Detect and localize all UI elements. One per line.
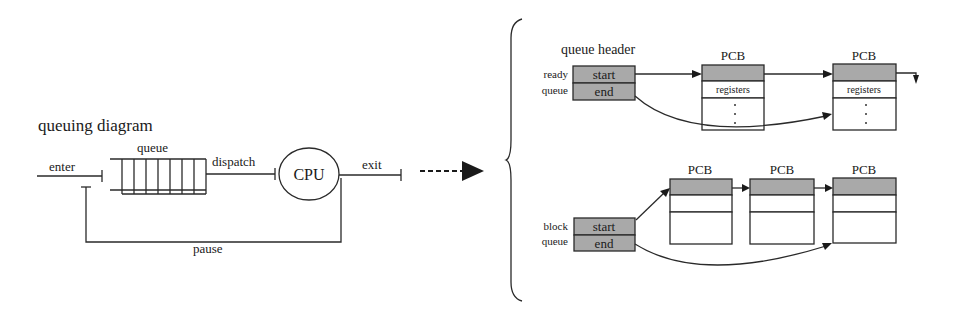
queuing-diagram: queuing diagram enter queue dispatch CPU <box>37 116 401 256</box>
block-queue-label-line2: queue <box>542 235 568 247</box>
arrow-head-icon <box>823 70 833 78</box>
ready-queue: queue header ready queue start end PCB r… <box>542 42 919 130</box>
pcb-title: PCB <box>688 162 713 177</box>
pcb2-next-pointer <box>896 73 916 78</box>
arrow-head-icon <box>742 184 750 192</box>
ready-queue-label-line2: queue <box>542 84 568 96</box>
queue-header-title: queue header <box>561 42 636 57</box>
queue-label: queue <box>137 140 168 155</box>
block-queue: block queue start end PCB PCB PCB <box>542 162 896 265</box>
block-start-label: start <box>593 219 616 234</box>
arrow-head-icon <box>825 184 833 192</box>
ready-start-label: start <box>593 67 616 82</box>
pcb-registers-label: registers <box>716 84 750 95</box>
arrow-head-icon <box>692 70 702 78</box>
pcb-title: PCB <box>852 162 877 177</box>
arrow-head-icon <box>462 161 484 181</box>
block-end-label: end <box>595 236 614 251</box>
queuing-diagram-canvas: queuing diagram enter queue dispatch CPU <box>0 0 955 317</box>
ready-pcb-2: PCB registers <box>833 48 896 130</box>
pcb-title: PCB <box>852 48 877 63</box>
block-start-to-pcb1-arrow <box>636 193 664 220</box>
arrow-head-icon <box>822 243 832 250</box>
dispatch-label: dispatch <box>212 154 256 169</box>
arrow-head-icon <box>822 112 832 120</box>
block-pcb-3: PCB <box>833 162 896 243</box>
ready-queue-label-line1: ready <box>544 68 569 80</box>
block-end-to-pcb3-arrow <box>635 244 826 265</box>
enter-label: enter <box>49 159 76 174</box>
block-pcb-1: PCB <box>670 162 732 244</box>
block-queue-label-line1: block <box>544 220 569 232</box>
queue-buffer <box>110 159 206 194</box>
diagram-title: queuing diagram <box>38 116 153 135</box>
curly-brace <box>506 19 522 301</box>
block-pcb-2: PCB <box>750 162 814 244</box>
pcb-registers-label: registers <box>847 84 881 95</box>
dashed-arrow <box>420 161 484 181</box>
cpu-label: CPU <box>293 166 325 183</box>
arrow-head-icon <box>913 75 919 84</box>
pcb-title: PCB <box>721 48 746 63</box>
pcb-title: PCB <box>770 162 795 177</box>
exit-label: exit <box>362 157 382 172</box>
ready-end-label: end <box>595 84 614 99</box>
ready-pcb-1: PCB registers <box>702 48 764 130</box>
pause-label: pause <box>193 241 223 256</box>
